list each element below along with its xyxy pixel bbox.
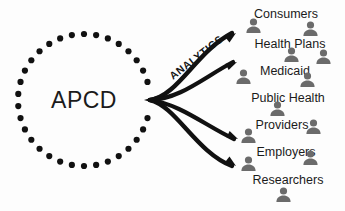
ring-dot <box>134 57 140 63</box>
audience-label-consumers: Consumers <box>254 7 318 21</box>
person-icon <box>240 128 257 143</box>
ring-dot <box>125 48 131 54</box>
ring-dot <box>15 91 21 97</box>
ring-dot <box>105 158 111 164</box>
arrow-origin-wedge <box>144 95 160 105</box>
ring-dot <box>81 31 87 37</box>
diagram-canvas: APCD ANALYTICS ConsumersHealth PlansMedi… <box>0 0 345 211</box>
audience-label-researchers: Researchers <box>253 173 324 187</box>
person-icon <box>302 21 319 36</box>
ring-dot <box>22 67 28 73</box>
ring-dot <box>93 162 99 168</box>
person-icon <box>302 150 319 165</box>
ring-dot <box>144 79 150 85</box>
ring-dot <box>116 153 122 159</box>
ring-dot <box>46 153 52 159</box>
person-icon <box>245 18 262 33</box>
ring-dot <box>28 57 34 63</box>
ring-dot <box>28 137 34 143</box>
ring-dot <box>46 41 52 47</box>
person-icon <box>275 187 292 202</box>
person-icon <box>315 49 332 64</box>
audience-label-public-health: Public Health <box>251 91 325 105</box>
ring-dot <box>69 162 75 168</box>
ring-dot <box>15 103 21 109</box>
ring-dot <box>57 158 63 164</box>
ring-dot <box>144 115 150 121</box>
ring-dot <box>125 146 131 152</box>
ring-dot <box>36 146 42 152</box>
ring-dot <box>17 79 23 85</box>
ring-dot <box>36 48 42 54</box>
ring-dot <box>116 41 122 47</box>
ring-dot <box>134 137 140 143</box>
ring-dot <box>140 67 146 73</box>
ring-dot <box>69 32 75 38</box>
person-icon <box>283 47 300 62</box>
ring-dot <box>17 115 23 121</box>
person-icon <box>240 156 257 171</box>
ring-dot <box>57 35 63 41</box>
person-icon <box>269 101 286 116</box>
ring-dot <box>140 126 146 132</box>
person-icon <box>235 69 252 84</box>
person-icon <box>305 119 322 134</box>
person-icon <box>299 72 316 87</box>
ring-dot <box>93 32 99 38</box>
audience-label-providers: Providers <box>256 118 309 132</box>
apcd-label: APCD <box>51 87 117 114</box>
ring-dot <box>81 163 87 169</box>
ring-dot <box>22 126 28 132</box>
ring-dot <box>105 35 111 41</box>
